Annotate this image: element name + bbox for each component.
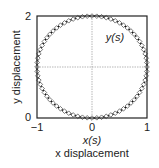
x-of-s-label: x(s) bbox=[82, 134, 102, 146]
y-of-s-annotation: y(s) bbox=[105, 31, 125, 43]
x-axis-label: x displacement bbox=[55, 147, 128, 159]
y-tick-2: 2 bbox=[25, 10, 31, 22]
parametric-circle-chart: 2 0 −1 0 1 y(s) x(s) x displacement y di… bbox=[0, 0, 159, 168]
x-tick-1: 1 bbox=[144, 121, 150, 133]
y-axis-label: y displacement bbox=[10, 30, 22, 103]
x-tick-neg1: −1 bbox=[31, 121, 44, 133]
plot-area bbox=[35, 14, 150, 121]
x-tick-0: 0 bbox=[89, 121, 95, 133]
